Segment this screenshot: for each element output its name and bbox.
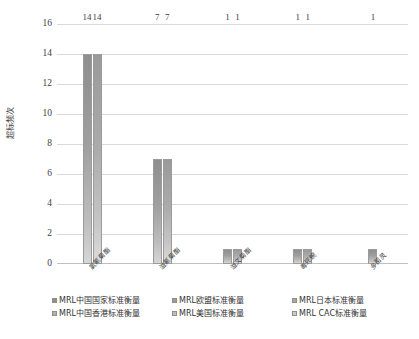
y-tick-label: 6: [22, 169, 52, 179]
legend-item[interactable]: MRL日本标准衡量: [292, 294, 412, 307]
plot-area: 14147711111: [57, 24, 408, 264]
legend-item[interactable]: MRL CAC标准衡量: [292, 307, 412, 320]
bar-item[interactable]: 7: [163, 24, 172, 264]
legend-swatch-icon: [52, 311, 57, 316]
y-axis-ticks: 1614121086420: [18, 24, 52, 264]
bar-item[interactable]: 14: [93, 24, 102, 264]
legend-swatch-icon: [292, 298, 297, 303]
legend-label: MRL中国国家标准衡量: [59, 296, 140, 305]
bar[interactable]: [83, 54, 92, 264]
bar-group: 1414: [57, 24, 127, 264]
legend-swatch-icon: [292, 311, 297, 316]
bar-item[interactable]: 1: [293, 24, 302, 264]
bar-value-label: 1: [235, 12, 240, 24]
bar-item[interactable]: 1: [368, 24, 377, 264]
bar-item[interactable]: 7: [153, 24, 162, 264]
bar-value-label: 7: [155, 12, 160, 24]
legend-label: MRL美国标准衡量: [179, 309, 244, 318]
bar-item[interactable]: 14: [83, 24, 92, 264]
bar-item[interactable]: 1: [233, 24, 242, 264]
bar-value-label: 1: [305, 12, 310, 24]
bar-group: 77: [127, 24, 197, 264]
bar-item[interactable]: 1: [223, 24, 232, 264]
legend-swatch-icon: [52, 298, 57, 303]
bar-item[interactable]: 1: [303, 24, 312, 264]
bar[interactable]: [163, 159, 172, 264]
bar-group: 11: [268, 24, 338, 264]
y-tick-label: 4: [22, 199, 52, 209]
y-axis-title: 超标频次: [6, 107, 15, 139]
bar-value-label: 1: [371, 12, 376, 24]
legend-item[interactable]: MRL中国国家标准衡量: [52, 294, 172, 307]
y-tick-label: 14: [22, 49, 52, 59]
y-tick-label: 0: [22, 259, 52, 269]
bar[interactable]: [153, 159, 162, 264]
legend-item[interactable]: MRL欧盟标准衡量: [172, 294, 292, 307]
legend-swatch-icon: [172, 311, 177, 316]
chart-legend: MRL中国国家标准衡量MRL欧盟标准衡量MRL日本标准衡量MRL中国香港标准衡量…: [52, 294, 412, 320]
bar-value-label: 1: [225, 12, 230, 24]
y-tick-label: 8: [22, 139, 52, 149]
bar[interactable]: [93, 54, 102, 264]
legend-label: MRL中国香港标准衡量: [59, 309, 140, 318]
bar-value-label: 14: [93, 12, 102, 24]
legend-label: MRL欧盟标准衡量: [179, 296, 244, 305]
y-tick-label: 2: [22, 229, 52, 239]
legend-item[interactable]: MRL美国标准衡量: [172, 307, 292, 320]
legend-swatch-icon: [172, 298, 177, 303]
legend-label: MRL CAC标准衡量: [299, 309, 367, 318]
y-tick-label: 16: [22, 19, 52, 29]
legend-item[interactable]: MRL中国香港标准衡量: [52, 307, 172, 320]
bar-value-label: 1: [295, 12, 300, 24]
bar-value-label: 7: [165, 12, 170, 24]
bar-group: 1: [338, 24, 408, 264]
x-axis-labels: 氯氰菊酯溢氰菊酯溢文菊酯毒死蜿多菌灵: [57, 266, 408, 294]
y-tick-label: 10: [22, 109, 52, 119]
bar-chart: 超标频次 1614121086420 14147711111 氯氰菊酯溢氰菊酯溢…: [0, 0, 419, 339]
y-tick-label: 12: [22, 79, 52, 89]
bar-group: 11: [197, 24, 267, 264]
legend-label: MRL日本标准衡量: [299, 296, 364, 305]
bar-value-label: 14: [83, 12, 92, 24]
